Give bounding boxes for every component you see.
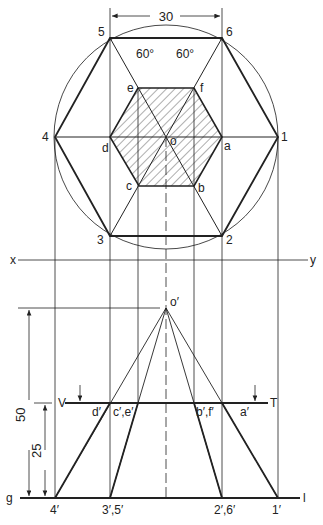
- g-label: g: [6, 491, 13, 505]
- top-view-edges: [55, 38, 278, 236]
- label-3: 3: [97, 233, 104, 247]
- label-6: 6: [226, 25, 233, 39]
- x-label: x: [10, 253, 16, 267]
- p35-prime-label: 3′,5′: [102, 503, 124, 517]
- label-4: 4: [42, 130, 49, 144]
- angle-left-label: 60°: [136, 47, 154, 61]
- pyramid-projection-drawing: 30 60° 60° x y o′ V T d′ c′,e′ b′,f′ a′ …: [0, 0, 323, 525]
- p26-prime-label: 2′,6′: [214, 503, 236, 517]
- label-b: b: [198, 181, 205, 195]
- label-c: c: [126, 179, 132, 193]
- p1-prime-label: 1′: [272, 503, 282, 517]
- bf-prime-label: b′,f′: [196, 405, 215, 419]
- label-d: d: [102, 141, 109, 155]
- angle-right-label: 60°: [176, 47, 194, 61]
- d-prime-label: d′: [92, 405, 102, 419]
- ce-prime-label: c′,e′: [113, 405, 134, 419]
- label-f: f: [200, 81, 204, 95]
- label-5: 5: [98, 25, 105, 39]
- T-label: T: [270, 396, 278, 410]
- o-prime-label: o′: [170, 295, 180, 309]
- a-prime-label: a′: [240, 405, 250, 419]
- label-2: 2: [226, 233, 233, 247]
- label-1: 1: [281, 130, 288, 144]
- height-dimensions: [18, 308, 255, 496]
- label-o: o: [170, 134, 177, 148]
- frustum-outline: [20, 403, 300, 498]
- label-a: a: [224, 139, 231, 153]
- dim-50-label: 50: [13, 408, 28, 422]
- y-label: y: [310, 253, 316, 267]
- label-e: e: [127, 81, 134, 95]
- l-label: l: [303, 491, 306, 505]
- p4-prime-label: 4′: [50, 503, 60, 517]
- dim-25-label: 25: [29, 444, 44, 458]
- V-label: V: [58, 396, 66, 410]
- dim-30-label: 30: [159, 9, 173, 24]
